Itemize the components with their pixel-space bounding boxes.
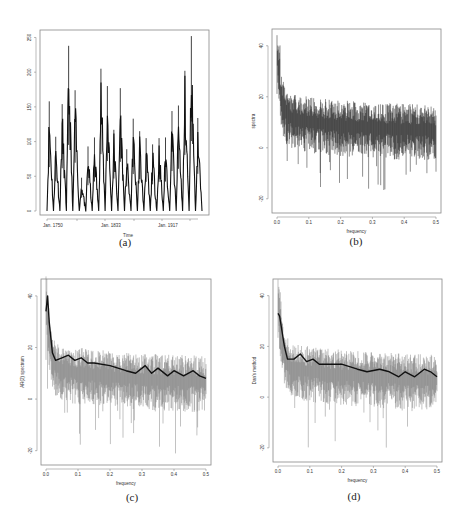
chart-d-xtick: 0.3	[370, 469, 377, 474]
chart-d-ytick: 20	[260, 343, 265, 349]
chart-d-xtick: 0.2	[338, 469, 345, 474]
chart-d-xtick: 0.5	[434, 469, 441, 474]
chart-d-ylabel: Dan's method	[252, 356, 257, 384]
chart-d-plot: -2002040Dan's method0.00.10.20.30.40.5fr…	[0, 0, 467, 531]
chart-d-xtick: 0.0	[275, 469, 282, 474]
chart-d-ytick: -20	[260, 444, 265, 451]
chart-d-xtick: 0.1	[307, 469, 314, 474]
panel-d: -2002040Dan's method0.00.10.20.30.40.5fr…	[0, 0, 467, 531]
chart-d-ytick: 40	[260, 293, 265, 299]
chart-d-xlabel: frequency	[348, 478, 369, 483]
caption-d: (d)	[334, 490, 374, 502]
chart-d-xtick: 0.4	[402, 469, 409, 474]
chart-d-ytick: 0	[260, 395, 265, 398]
